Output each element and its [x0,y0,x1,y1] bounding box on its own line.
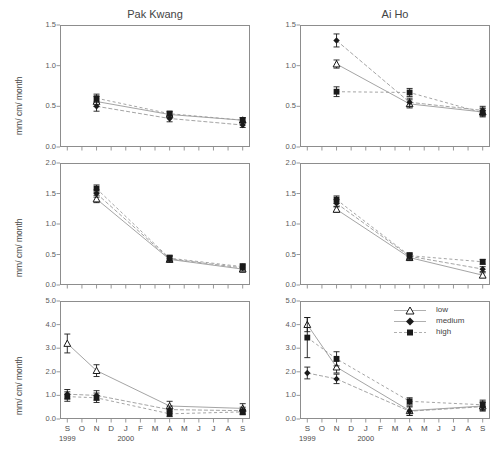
x-tick-label: F [134,424,146,433]
x-tick-label: N [331,424,343,433]
y-tick-label: 0.5 [26,250,56,259]
x-tick-label: J [360,424,372,433]
x-axis-year-label: 2000 [355,434,377,443]
y-tick-label: 2.0 [26,367,56,376]
diamond-filled-icon [392,316,432,327]
y-tick-label: 1.0 [26,61,56,70]
y-axis-label-row2: mm/ cm/ month [14,218,24,277]
y-tick-label: 3.0 [266,343,296,352]
y-tick-label: 1.0 [266,390,296,399]
x-tick-label: O [76,424,88,433]
y-tick-label: 0.0 [26,280,56,289]
y-tick-label: 0.5 [266,101,296,110]
x-axis-year-label: 2000 [115,434,137,443]
y-tick-label: 1.0 [266,219,296,228]
x-tick-label: J [193,424,205,433]
y-tick-label: 1.0 [26,390,56,399]
legend-label-high: high [436,327,451,336]
x-tick-label: J [433,424,445,433]
x-tick-label: S [61,424,73,433]
column-title-pak-kwang: Pak Kwang [60,8,250,20]
column-title-ai-ho: Ai Ho [300,8,490,20]
x-tick-label: M [389,424,401,433]
x-tick-label: F [374,424,386,433]
y-tick-label: 0.0 [266,142,296,151]
x-tick-label: A [404,424,416,433]
plot-panel-aiho-avicennia [300,25,490,147]
legend-row-medium: medium [392,316,488,327]
y-tick-label: 0.0 [26,414,56,423]
x-tick-label: J [447,424,459,433]
x-tick-label: M [149,424,161,433]
x-axis-year-label: 1999 [56,434,78,443]
x-tick-label: A [462,424,474,433]
y-tick-label: 0.0 [266,414,296,423]
figure-panel-grid: Pak Kwang Ai Ho mm/ cm/ month mm/ cm/ mo… [0,0,504,455]
x-tick-label: A [164,424,176,433]
y-tick-label: 1.0 [26,219,56,228]
legend-row-high: high [392,327,488,338]
plot-panel-aiho-rhizophora [300,163,490,285]
x-axis-year-label: 1999 [296,434,318,443]
y-tick-label: 2.0 [266,367,296,376]
y-tick-label: 1.5 [266,189,296,198]
y-tick-label: 4.0 [266,320,296,329]
plot-panel-pakkwang-avicennia [60,25,250,147]
triangle-open-icon [392,305,432,316]
square-filled-icon [392,327,432,338]
y-tick-label: 0.5 [266,250,296,259]
x-tick-label: D [345,424,357,433]
y-tick-label: 5.0 [26,296,56,305]
y-tick-label: 1.5 [26,20,56,29]
legend-row-low: low [392,305,488,316]
y-tick-label: 0.0 [266,280,296,289]
x-tick-label: J [120,424,132,433]
legend: low medium high [392,305,488,338]
plot-panel-pakkwang-sonneratia [60,301,250,419]
x-tick-label: J [207,424,219,433]
y-tick-label: 0.5 [26,101,56,110]
y-tick-label: 2.0 [266,158,296,167]
x-tick-label: D [105,424,117,433]
y-tick-label: 3.0 [26,343,56,352]
y-tick-label: 0.0 [26,142,56,151]
y-tick-label: 5.0 [266,296,296,305]
x-tick-label: N [91,424,103,433]
x-tick-label: O [316,424,328,433]
x-tick-label: M [178,424,190,433]
legend-label-low: low [436,305,448,314]
y-tick-label: 1.0 [266,61,296,70]
y-axis-label-row1: mm/ cm/ month [14,76,24,135]
x-tick-label: S [477,424,489,433]
y-tick-label: 1.5 [266,20,296,29]
legend-label-medium: medium [436,316,464,325]
y-axis-label-row3: mm/ cm/ month [14,356,24,415]
y-tick-label: 4.0 [26,320,56,329]
y-tick-label: 1.5 [26,189,56,198]
y-tick-label: 2.0 [26,158,56,167]
x-tick-label: S [301,424,313,433]
x-tick-label: S [237,424,249,433]
plot-panel-pakkwang-rhizophora [60,163,250,285]
x-tick-label: A [222,424,234,433]
x-tick-label: M [418,424,430,433]
